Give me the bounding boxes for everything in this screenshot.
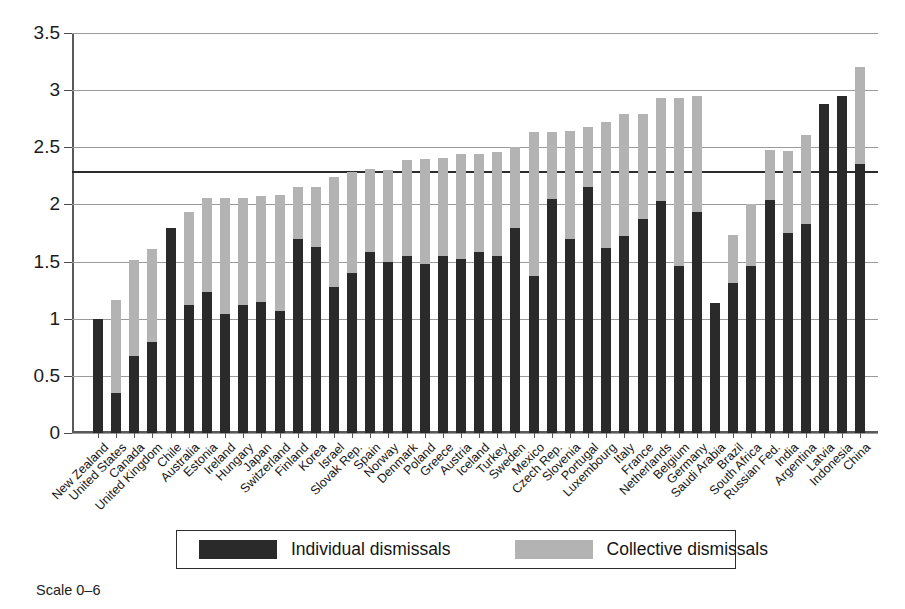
bar-segment-individual bbox=[256, 302, 266, 433]
bar-segment-collective bbox=[256, 196, 266, 301]
y-tick-label-1.5: 1.5 bbox=[14, 252, 60, 271]
scale-caption: Scale 0–6 bbox=[36, 582, 101, 598]
bar-segment-collective bbox=[638, 114, 648, 219]
bar-segment-collective bbox=[801, 135, 811, 224]
y-tick-mark bbox=[64, 147, 72, 148]
bar-column bbox=[801, 33, 811, 433]
y-tick-mark bbox=[64, 319, 72, 320]
bar-column bbox=[710, 33, 720, 433]
bar-segment-collective bbox=[565, 131, 575, 238]
bar-column bbox=[275, 33, 285, 433]
bar-segment-individual bbox=[293, 239, 303, 433]
bar-column bbox=[402, 33, 412, 433]
bar-column bbox=[619, 33, 629, 433]
bar-segment-individual bbox=[492, 256, 502, 433]
y-tick-mark bbox=[64, 204, 72, 205]
y-tick-mark bbox=[64, 33, 72, 34]
bar-column bbox=[93, 33, 103, 433]
bar-column bbox=[456, 33, 466, 433]
bar-column bbox=[365, 33, 375, 433]
bar-segment-collective bbox=[619, 114, 629, 236]
bar-column bbox=[529, 33, 539, 433]
bar-column bbox=[656, 33, 666, 433]
y-tick-mark bbox=[64, 262, 72, 263]
bar-column bbox=[238, 33, 248, 433]
bar-segment-individual bbox=[638, 219, 648, 433]
bar-column bbox=[547, 33, 557, 433]
bar-segment-collective bbox=[202, 198, 212, 293]
bar-segment-individual bbox=[529, 276, 539, 433]
bar-segment-collective bbox=[492, 152, 502, 256]
bar-segment-collective bbox=[692, 96, 702, 213]
bar-segment-collective bbox=[510, 147, 520, 228]
bar-segment-collective bbox=[293, 187, 303, 238]
bar-column bbox=[383, 33, 393, 433]
bar-segment-collective bbox=[529, 132, 539, 276]
stacked-bar-chart: 00.511.522.533.5 New ZealandUnited State… bbox=[0, 0, 905, 609]
bar-segment-collective bbox=[855, 67, 865, 164]
bar-column bbox=[293, 33, 303, 433]
bar-column bbox=[220, 33, 230, 433]
bar-segment-individual bbox=[692, 212, 702, 433]
bar-column bbox=[837, 33, 847, 433]
bar-column bbox=[420, 33, 430, 433]
bar-segment-individual bbox=[837, 96, 847, 433]
bar-segment-collective bbox=[674, 98, 684, 266]
bar-segment-collective bbox=[129, 260, 139, 356]
bar-column bbox=[129, 33, 139, 433]
legend-swatch-collective bbox=[515, 540, 593, 559]
bar-segment-collective bbox=[383, 170, 393, 261]
bar-column bbox=[583, 33, 593, 433]
bar-segment-collective bbox=[547, 132, 557, 198]
bar-segment-collective bbox=[402, 160, 412, 256]
bar-segment-individual bbox=[583, 187, 593, 433]
bar-segment-collective bbox=[765, 150, 775, 200]
legend-label-collective: Collective dismissals bbox=[607, 539, 768, 560]
bar-segment-collective bbox=[456, 154, 466, 259]
bar-segment-individual bbox=[565, 239, 575, 433]
y-tick-label-3: 3 bbox=[14, 80, 60, 99]
bar-column bbox=[692, 33, 702, 433]
bar-segment-individual bbox=[474, 252, 484, 433]
y-tick-label-1: 1 bbox=[14, 309, 60, 328]
bar-segment-collective bbox=[184, 212, 194, 305]
bar-column bbox=[674, 33, 684, 433]
bar-segment-collective bbox=[783, 151, 793, 233]
bar-column bbox=[184, 33, 194, 433]
bar-column bbox=[202, 33, 212, 433]
bar-column bbox=[147, 33, 157, 433]
bar-column bbox=[329, 33, 339, 433]
bar-column bbox=[638, 33, 648, 433]
bar-segment-collective bbox=[238, 198, 248, 305]
plot-area bbox=[72, 33, 878, 433]
bar-segment-individual bbox=[547, 199, 557, 433]
y-tick-label-3.5: 3.5 bbox=[14, 23, 60, 42]
bar-segment-individual bbox=[93, 319, 103, 433]
bar-column bbox=[438, 33, 448, 433]
legend-entry-individual-dismissals: Individual dismissals bbox=[199, 539, 451, 560]
bar-column bbox=[492, 33, 502, 433]
bar-segment-collective bbox=[275, 195, 285, 310]
bar-column bbox=[855, 33, 865, 433]
y-tick-label-0.5: 0.5 bbox=[14, 366, 60, 385]
bar-segment-individual bbox=[819, 104, 829, 433]
legend-swatch-individual bbox=[199, 540, 277, 559]
bar-segment-individual bbox=[674, 266, 684, 433]
bar-segment-collective bbox=[111, 300, 121, 393]
bar-segment-individual bbox=[510, 228, 520, 433]
bar-column bbox=[783, 33, 793, 433]
bar-column bbox=[819, 33, 829, 433]
y-tick-mark bbox=[64, 376, 72, 377]
bar-column bbox=[728, 33, 738, 433]
bar-column bbox=[166, 33, 176, 433]
bar-segment-individual bbox=[855, 164, 865, 433]
bar-column bbox=[311, 33, 321, 433]
bar-segment-collective bbox=[420, 159, 430, 264]
bar-segment-collective bbox=[746, 204, 756, 266]
y-tick-mark bbox=[64, 433, 72, 434]
bar-segment-collective bbox=[728, 235, 738, 283]
y-tick-label-2: 2 bbox=[14, 194, 60, 213]
bar-segment-collective bbox=[601, 122, 611, 248]
bar-column bbox=[565, 33, 575, 433]
bar-column bbox=[256, 33, 266, 433]
